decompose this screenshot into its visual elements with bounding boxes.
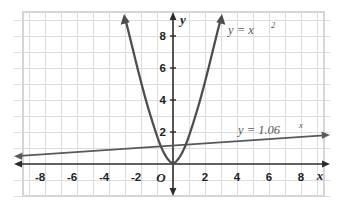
- exponential-label-base: y = 1.06: [236, 123, 281, 137]
- x-tick-label: 8: [298, 171, 305, 183]
- coordinate-plane: -8 -6 -4 -2 2 4 6 8 2 4 6 8 O x y y = x …: [0, 0, 344, 205]
- x-axis-label: x: [316, 168, 324, 183]
- x-tick-label: 6: [266, 171, 272, 183]
- origin-label: O: [156, 170, 166, 185]
- x-tick-label: -6: [67, 171, 77, 183]
- exponential-label-exponent: x: [298, 120, 303, 130]
- x-tick-label: 4: [234, 171, 241, 183]
- x-tick-label: -8: [35, 171, 46, 183]
- x-tick-label: -4: [99, 171, 110, 183]
- x-tick-label: -2: [131, 171, 141, 183]
- graph-figure: -8 -6 -4 -2 2 4 6 8 2 4 6 8 O x y y = x …: [0, 0, 344, 205]
- figure-background: [0, 0, 344, 205]
- y-tick-label: 4: [160, 94, 167, 106]
- x-tick-label: 2: [202, 171, 208, 183]
- y-tick-label: 2: [160, 126, 166, 138]
- y-axis-label: y: [178, 12, 186, 27]
- y-tick-label: 8: [160, 30, 167, 42]
- y-tick-label: 6: [160, 62, 166, 74]
- parabola-label-base: y = x: [226, 23, 254, 37]
